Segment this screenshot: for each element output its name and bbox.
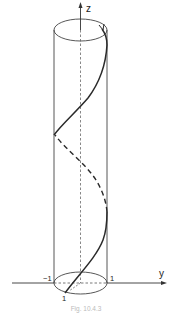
z-axis-arrow-icon bbox=[79, 2, 83, 8]
tick-y-pos-1: 1 bbox=[110, 274, 114, 283]
helix-back-segment bbox=[55, 135, 107, 212]
helix-cylinder-diagram: z y −1 1 1 Fig. 10.4.3 bbox=[0, 0, 172, 314]
y-axis-arrow-icon bbox=[161, 281, 167, 285]
figure-caption: Fig. 10.4.3 bbox=[71, 305, 102, 313]
helix-front-lower bbox=[65, 212, 107, 293]
x-axis-hidden bbox=[69, 283, 81, 291]
tick-x-pos-1: 1 bbox=[62, 294, 66, 303]
tick-y-neg-1: −1 bbox=[43, 274, 52, 283]
helix-direction-arrow-icon bbox=[99, 24, 104, 30]
y-axis-label: y bbox=[159, 268, 164, 279]
z-axis-label: z bbox=[86, 3, 91, 14]
